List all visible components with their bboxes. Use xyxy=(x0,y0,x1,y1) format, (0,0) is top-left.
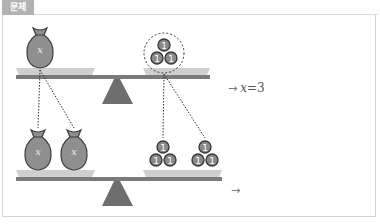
top-balance: x 1 1 1 xyxy=(16,28,210,104)
top-fulcrum xyxy=(102,79,133,104)
coin-label: 1 xyxy=(167,156,173,166)
bottom-left-pan xyxy=(16,170,95,177)
coin: 1 xyxy=(157,141,169,153)
coin-label: 1 xyxy=(154,54,160,64)
coin: 1 xyxy=(192,154,204,166)
coin-label: 1 xyxy=(160,143,166,153)
coin-label: 1 xyxy=(161,41,167,51)
top-coin-3: 1 xyxy=(165,52,177,64)
top-coin-2: 1 xyxy=(151,52,163,64)
coin-label: 1 xyxy=(202,143,208,153)
coin-label: 1 xyxy=(153,156,159,166)
coin-label: 1 xyxy=(195,156,201,166)
bottom-coin-group-1: 1 1 1 xyxy=(150,141,176,166)
coin: 1 xyxy=(199,141,211,153)
bottom-balance: x x 1 1 1 1 1 1 xyxy=(16,130,222,206)
bottom-beam xyxy=(16,177,222,181)
result-variable: x xyxy=(240,81,247,95)
top-right-pan xyxy=(143,68,210,75)
bag-label: x xyxy=(37,44,43,55)
coin: 1 xyxy=(150,154,162,166)
bottom-coin-group-2: 1 1 1 xyxy=(192,141,218,166)
top-coin-1: 1 xyxy=(158,39,170,51)
top-left-pan xyxy=(16,68,95,75)
bottom-fulcrum xyxy=(102,181,133,206)
balance-diagram: x 1 1 1 x x xyxy=(0,0,380,224)
bottom-bag-x-1: x xyxy=(25,130,51,170)
right-arrow-icon: → xyxy=(231,184,240,197)
top-result: →x=3 xyxy=(228,81,265,95)
result-equals: = xyxy=(247,81,257,95)
top-bag-x: x xyxy=(27,28,53,68)
bottom-bag-x-2: x xyxy=(61,130,87,170)
right-arrow-icon: → xyxy=(228,82,237,95)
bottom-result: → xyxy=(231,183,243,197)
coin-label: 1 xyxy=(209,156,215,166)
bag-label: x xyxy=(71,146,77,157)
connector-coins-1 xyxy=(163,74,164,138)
bag-label: x xyxy=(35,146,41,157)
coin: 1 xyxy=(164,154,176,166)
bottom-right-pan xyxy=(143,170,222,177)
coin: 1 xyxy=(206,154,218,166)
result-value: 3 xyxy=(257,81,265,95)
coin-label: 1 xyxy=(168,54,174,64)
connector-coins-2 xyxy=(164,74,205,138)
